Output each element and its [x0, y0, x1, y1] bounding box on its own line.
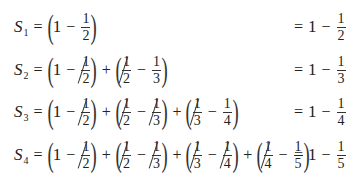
minus-sign: −: [208, 146, 217, 164]
equation-lhs: S4 = ( 1 − 12 ) + ( 12 − 13 ) + ( 13 − 1…: [14, 135, 309, 175]
equation-rhs: = 1 − 13: [289, 50, 347, 90]
left-paren: (: [186, 135, 192, 175]
minus-sign: −: [137, 61, 146, 79]
result-fraction: 13: [337, 54, 346, 87]
minus-sign: −: [208, 103, 217, 121]
minus-sign: −: [137, 103, 146, 121]
fraction: 12: [81, 11, 90, 44]
minus-sign: −: [66, 103, 75, 121]
equals-sign: =: [294, 18, 303, 36]
left-paren: (: [115, 135, 121, 175]
cancelled-fraction: 12: [81, 96, 90, 129]
equals-sign: =: [34, 61, 43, 79]
right-paren: ): [91, 135, 97, 175]
cancelled-fraction: 12: [122, 96, 131, 129]
equation-rhs: = 1 − 14: [289, 92, 347, 132]
term-value: 1: [53, 17, 62, 37]
term-value: 1: [53, 60, 62, 80]
equals-sign: =: [34, 146, 43, 164]
equals-sign: =: [294, 61, 303, 79]
equation-s3: S3 = ( 1 − 12 ) + ( 12 − 13 ) + ( 13 − 1…: [0, 92, 350, 132]
equation-lhs: S1 = ( 1 − 12 ): [14, 7, 97, 47]
minus-sign: −: [322, 61, 331, 79]
equation-s2: S2 = ( 1 − 12 ) + ( 12 − 13 ) = 1 − 13: [0, 50, 350, 90]
sum-subscript: 2: [24, 70, 29, 81]
equals-sign: =: [294, 103, 303, 121]
equation-lhs: S3 = ( 1 − 12 ) + ( 12 − 13 ) + ( 13 − 1…: [14, 92, 238, 132]
result-one: 1: [308, 60, 317, 80]
minus-sign: −: [279, 146, 288, 164]
right-paren: ): [91, 7, 97, 47]
equals-sign: =: [34, 18, 43, 36]
minus-sign: −: [322, 103, 331, 121]
equals-sign: =: [34, 103, 43, 121]
left-paren: (: [47, 92, 53, 132]
left-paren: (: [47, 50, 53, 90]
minus-sign: −: [66, 146, 75, 164]
right-paren: ): [162, 50, 168, 90]
equation-lhs: S2 = ( 1 − 12 ) + ( 12 − 13 ): [14, 50, 167, 90]
cancelled-fraction: 13: [152, 96, 161, 129]
result-one: 1: [308, 145, 317, 165]
right-paren: ): [91, 50, 97, 90]
cancelled-fraction: 13: [193, 139, 202, 172]
right-paren: ): [162, 92, 168, 132]
cancelled-fraction: 12: [81, 54, 90, 87]
minus-sign: −: [322, 146, 331, 164]
result-fraction: 14: [337, 96, 346, 129]
cancelled-fraction: 13: [193, 96, 202, 129]
result-one: 1: [308, 17, 317, 37]
equation-rhs: = 1 − 15: [289, 135, 347, 175]
right-paren: ): [232, 92, 238, 132]
sum-symbol: S: [14, 102, 23, 122]
plus-sign: +: [243, 146, 252, 164]
equals-sign: =: [294, 146, 303, 164]
left-paren: (: [186, 92, 192, 132]
cancelled-fraction: 13: [152, 139, 161, 172]
result-fraction: 15: [337, 139, 346, 172]
fraction: 14: [223, 96, 232, 129]
cancelled-fraction: 12: [122, 54, 131, 87]
right-paren: ): [91, 92, 97, 132]
fraction: 13: [152, 54, 161, 87]
result-fraction: 12: [337, 11, 346, 44]
plus-sign: +: [102, 61, 111, 79]
equation-s4: S4 = ( 1 − 12 ) + ( 12 − 13 ) + ( 13 − 1…: [0, 135, 350, 175]
minus-sign: −: [137, 146, 146, 164]
equation-s1: S1 = ( 1 − 12 ) = 1 − 12: [0, 7, 350, 47]
left-paren: (: [47, 135, 53, 175]
sum-subscript: 4: [24, 155, 29, 166]
sum-symbol: S: [14, 17, 23, 37]
left-paren: (: [115, 50, 121, 90]
cancelled-fraction: 12: [81, 139, 90, 172]
cancelled-fraction: 12: [122, 139, 131, 172]
right-paren: ): [162, 135, 168, 175]
equation-rhs: = 1 − 12: [289, 7, 347, 47]
result-one: 1: [308, 102, 317, 122]
plus-sign: +: [102, 103, 111, 121]
plus-sign: +: [172, 103, 181, 121]
minus-sign: −: [322, 18, 331, 36]
right-paren: ): [232, 135, 238, 175]
left-paren: (: [47, 7, 53, 47]
sum-symbol: S: [14, 145, 23, 165]
sum-subscript: 1: [24, 27, 29, 38]
sum-subscript: 3: [24, 112, 29, 123]
minus-sign: −: [66, 61, 75, 79]
left-paren: (: [257, 135, 263, 175]
term-value: 1: [53, 102, 62, 122]
term-value: 1: [53, 145, 62, 165]
cancelled-fraction: 14: [223, 139, 232, 172]
left-paren: (: [115, 92, 121, 132]
sum-symbol: S: [14, 60, 23, 80]
cancelled-fraction: 14: [264, 139, 273, 172]
plus-sign: +: [102, 146, 111, 164]
plus-sign: +: [172, 146, 181, 164]
minus-sign: −: [66, 18, 75, 36]
